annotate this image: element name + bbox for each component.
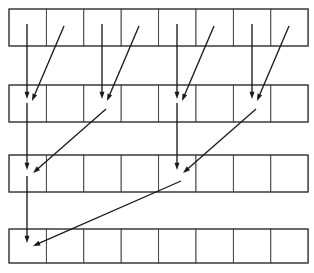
grid-cell: [9, 9, 46, 46]
grid-cell: [46, 229, 83, 263]
grid-cell: [121, 155, 158, 192]
arrow-layer: [25, 24, 290, 246]
grid-cell: [196, 85, 233, 122]
grid-cell: [121, 229, 158, 263]
grid-cell: [271, 85, 308, 122]
grid-cell: [9, 229, 46, 263]
grid-cell: [233, 155, 270, 192]
grid-cell: [196, 229, 233, 263]
grid-cell: [46, 155, 83, 192]
grid-cell: [121, 85, 158, 122]
diagram-canvas: [0, 0, 314, 273]
grid-cell: [233, 229, 270, 263]
grid-cell: [271, 9, 308, 46]
grid-cell: [46, 9, 83, 46]
grid-cell: [9, 85, 46, 122]
grid-cell: [159, 229, 196, 263]
grid-cell: [196, 9, 233, 46]
grid-cell: [271, 155, 308, 192]
grid-cell: [84, 229, 121, 263]
grid-layer: [9, 9, 308, 263]
grid-cell: [46, 85, 83, 122]
grid-cell: [121, 9, 158, 46]
grid-cell: [196, 155, 233, 192]
grid-arrow-diagram: [0, 0, 314, 273]
grid-cell: [84, 155, 121, 192]
grid-cell: [9, 155, 46, 192]
grid-cell: [271, 229, 308, 263]
